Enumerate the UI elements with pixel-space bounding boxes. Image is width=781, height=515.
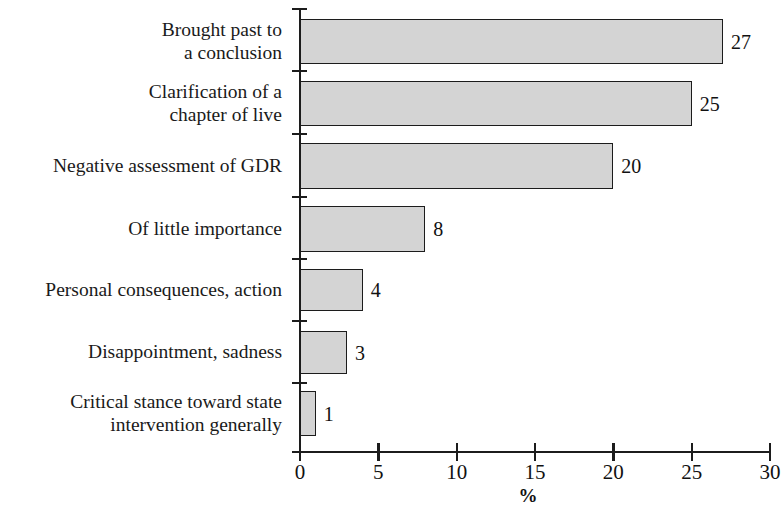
bar: [300, 269, 363, 311]
x-axis-tick-label: 5: [373, 462, 384, 483]
x-axis-tick: [456, 443, 458, 461]
category-label-line: Negative assessment of GDR: [53, 155, 282, 177]
x-axis-tick-label: 10: [446, 462, 467, 483]
bar-value-label: 25: [700, 94, 720, 114]
category-label: Negative assessment of GDR: [0, 155, 292, 178]
category-label: Disappointment, sadness: [0, 341, 292, 364]
bar: [300, 206, 425, 252]
x-axis-tick: [299, 443, 301, 461]
category-label-line: a conclusion: [184, 42, 282, 64]
bar: [300, 81, 692, 126]
category-label-line: Disappointment, sadness: [88, 341, 282, 363]
category-label-line: chapter of live: [169, 104, 282, 126]
category-label-line: Critical stance toward state: [70, 391, 282, 413]
plot-area: 2725208431: [300, 0, 781, 515]
category-label-line: Clarification of a: [149, 81, 282, 103]
category-label: Personal consequences, action: [0, 279, 292, 302]
bar: [300, 331, 347, 374]
x-axis-tick: [691, 443, 693, 461]
bar-value-label: 20: [621, 156, 641, 176]
bar-value-label: 1: [324, 404, 334, 424]
category-label-line: Personal consequences, action: [45, 279, 282, 301]
category-label: Brought past toa conclusion: [0, 19, 292, 65]
x-axis-tick-label: 0: [295, 462, 306, 483]
category-label-line: intervention generally: [110, 414, 282, 436]
category-label: Of little importance: [0, 218, 292, 241]
category-label-line: Brought past to: [162, 19, 282, 41]
x-axis-tick: [377, 443, 379, 461]
bar-chart: Brought past toa conclusionClarification…: [0, 0, 781, 515]
x-axis-tick: [769, 443, 771, 461]
bar-value-label: 27: [731, 32, 751, 52]
category-label: Clarification of achapter of live: [0, 81, 292, 127]
bar-value-label: 4: [371, 280, 381, 300]
bar: [300, 19, 723, 64]
x-axis-tick-label: 20: [603, 462, 624, 483]
x-axis-title: %: [519, 486, 538, 505]
bar: [300, 391, 316, 436]
x-axis-tick-label: 15: [525, 462, 546, 483]
category-label: Critical stance toward stateintervention…: [0, 391, 292, 437]
bar-value-label: 3: [355, 343, 365, 363]
x-axis-tick: [534, 443, 536, 461]
category-label-line: Of little importance: [128, 218, 282, 240]
bar: [300, 143, 613, 189]
x-axis-tick: [612, 443, 614, 461]
bar-value-label: 8: [433, 219, 443, 239]
x-axis-tick-label: 30: [760, 462, 781, 483]
x-axis-tick-label: 25: [681, 462, 702, 483]
